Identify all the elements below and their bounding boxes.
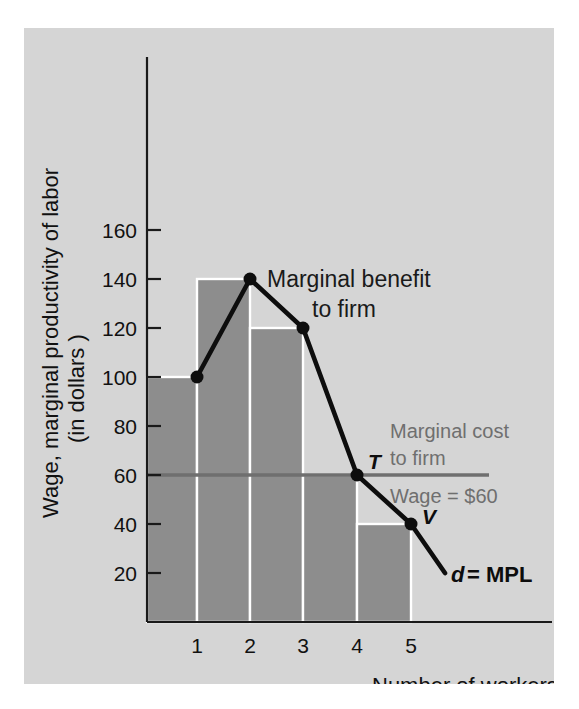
point-label-t: T bbox=[368, 450, 383, 473]
data-point-worker-4 bbox=[351, 469, 364, 482]
y-axis-title-line1: Wage, marginal productivity of labor bbox=[38, 168, 63, 518]
y-axis-title-line2: (in dollars ) bbox=[64, 334, 89, 443]
curve-label-mpl: = MPL bbox=[467, 562, 532, 587]
x-axis-title: Number of workers bbox=[372, 673, 554, 684]
y-tick-label-100: 100 bbox=[102, 366, 137, 389]
data-point-worker-3 bbox=[297, 322, 310, 335]
data-point-worker-2 bbox=[244, 273, 257, 286]
marginal-benefit-label-line2: to firm bbox=[312, 296, 376, 322]
y-tick-label-140: 140 bbox=[102, 268, 137, 291]
y-tick-label-60: 60 bbox=[114, 464, 137, 487]
chart-canvas: Wage, marginal productivity of labor (in… bbox=[24, 28, 554, 684]
x-tick-label-3: 3 bbox=[297, 634, 309, 657]
y-tick-label-80: 80 bbox=[114, 415, 137, 438]
wage-value-label: Wage = $60 bbox=[390, 485, 498, 507]
curve-label-d: d bbox=[451, 562, 465, 587]
figure-panel: Wage, marginal productivity of labor (in… bbox=[24, 28, 554, 684]
data-point-worker-1 bbox=[191, 371, 204, 384]
y-tick-label-40: 40 bbox=[114, 513, 137, 536]
data-point-worker-5 bbox=[405, 518, 418, 531]
bar-worker-1 bbox=[147, 377, 197, 622]
x-tick-label-1: 1 bbox=[191, 634, 203, 657]
bar-worker-4 bbox=[303, 475, 357, 622]
marginal-cost-label-line1: Marginal cost bbox=[390, 420, 509, 442]
x-tick-label-2: 2 bbox=[244, 634, 256, 657]
y-tick-label-20: 20 bbox=[114, 562, 137, 585]
point-label-v: V bbox=[422, 505, 438, 528]
x-tick-label-4: 4 bbox=[351, 634, 363, 657]
bar-worker-5 bbox=[357, 524, 411, 622]
marginal-cost-label-line2: to firm bbox=[390, 447, 446, 469]
y-tick-label-120: 120 bbox=[102, 317, 137, 340]
y-tick-label-160: 160 bbox=[102, 219, 137, 242]
x-axis-ticks: 1 2 3 4 5 bbox=[191, 634, 417, 657]
marginal-benefit-label-line1: Marginal benefit bbox=[267, 266, 431, 292]
x-tick-label-5: 5 bbox=[405, 634, 417, 657]
